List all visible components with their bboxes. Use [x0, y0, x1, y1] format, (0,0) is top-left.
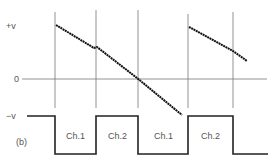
square-waveform	[27, 116, 268, 154]
channel-label: Ch.1	[154, 131, 173, 141]
channel-label: Ch.2	[201, 131, 220, 141]
minus-v-label: −v	[6, 111, 16, 121]
channel-label: Ch.1	[66, 131, 85, 141]
ramp-waveform	[56, 25, 247, 115]
channel-label: Ch.2	[108, 131, 127, 141]
part-label: (b)	[16, 137, 27, 147]
time-dividers	[55, 10, 233, 108]
chopper-waveform-diagram: +v 0 −v (b) Ch.1 Ch.2 Ch.1 Ch.2	[0, 0, 274, 165]
plus-v-label: +v	[6, 21, 16, 31]
zero-label: 0	[14, 74, 19, 84]
